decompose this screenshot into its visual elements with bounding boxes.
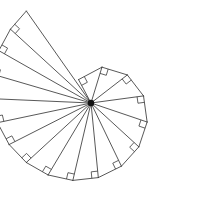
spiral-center-dot [88,100,94,106]
theodorus-spiral-figure [0,0,223,203]
figure-background [0,0,223,203]
theodorus-spiral-canvas [0,0,223,203]
